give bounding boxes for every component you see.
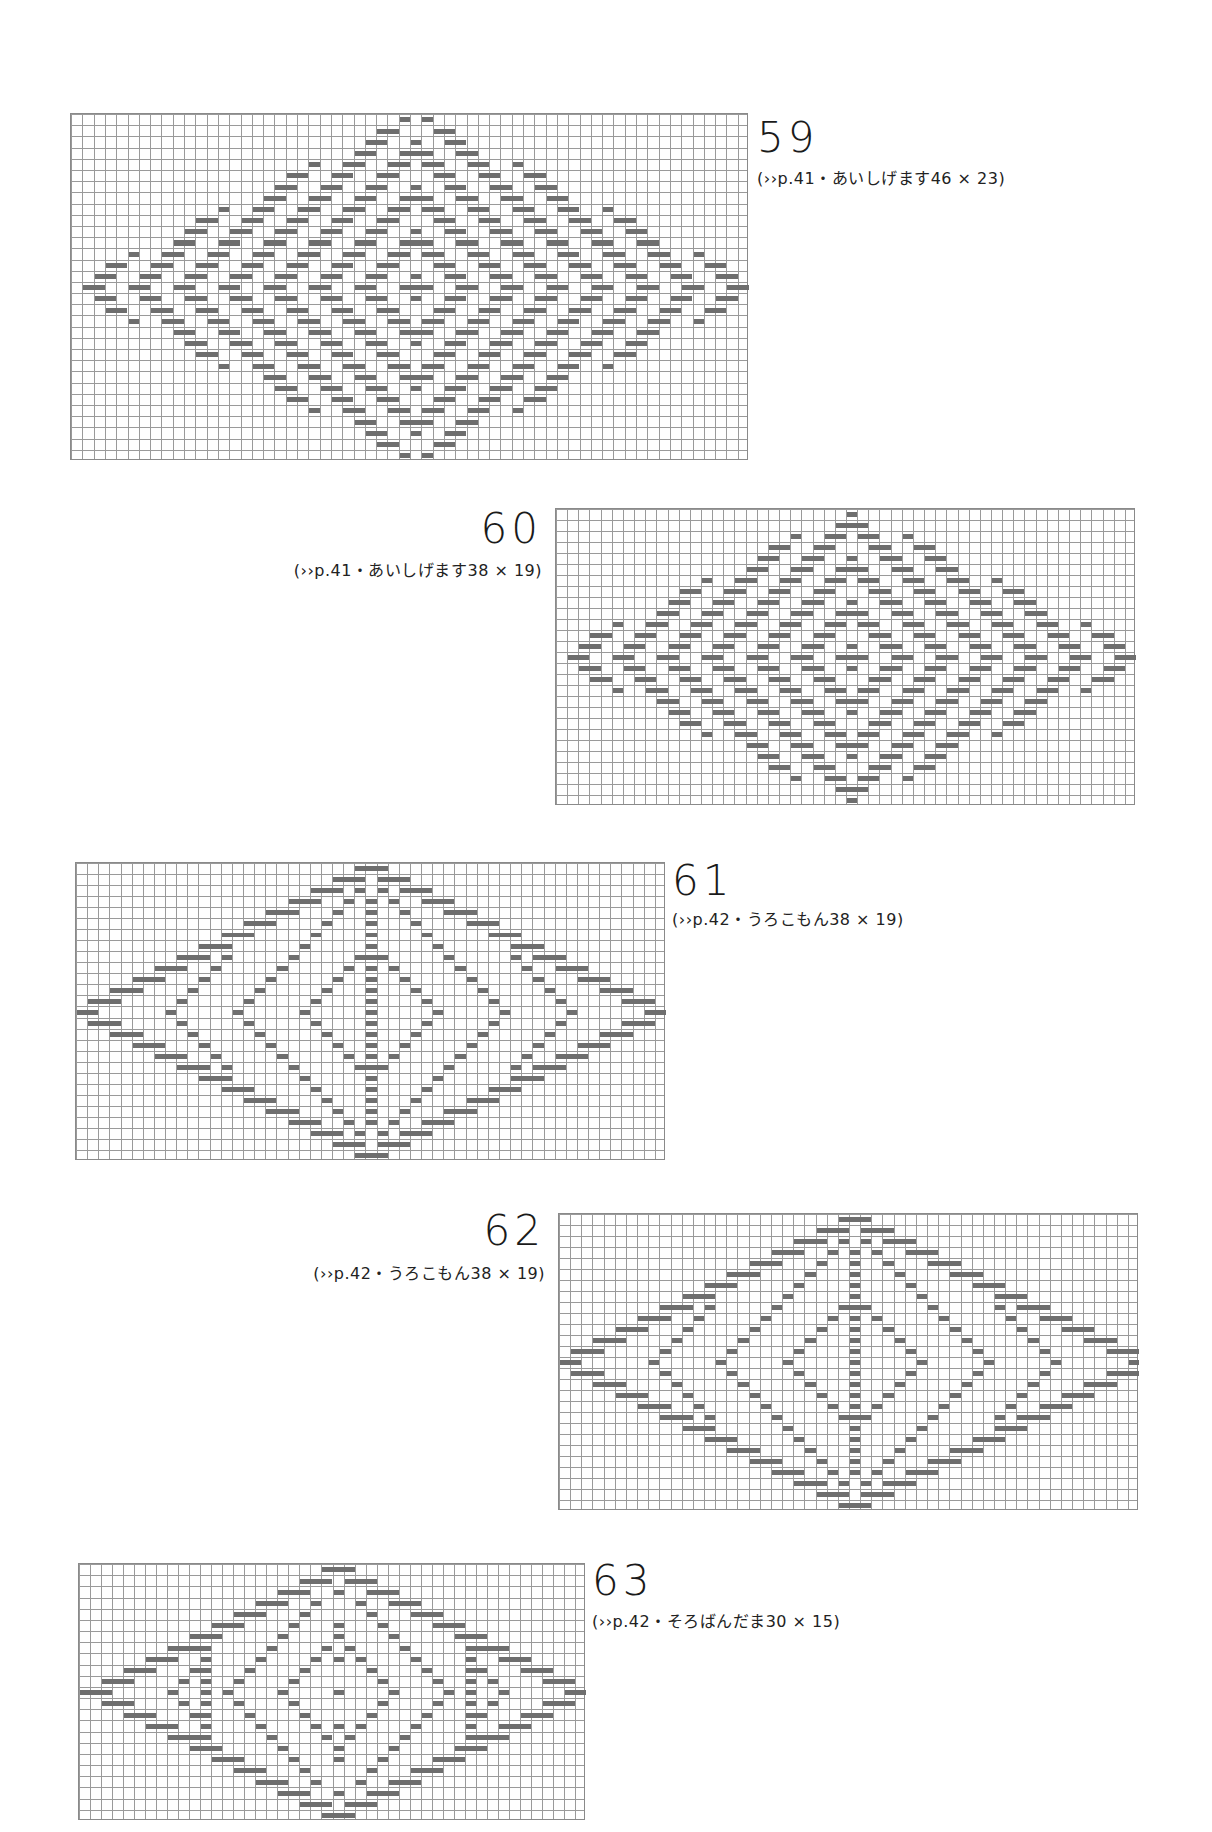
stitch — [906, 1349, 916, 1354]
stitch — [378, 1701, 388, 1706]
stitch — [298, 364, 320, 369]
stitch — [162, 319, 184, 324]
stitch — [705, 263, 727, 268]
stitch — [355, 1131, 365, 1136]
stitch — [880, 600, 901, 605]
stitch — [794, 1481, 826, 1486]
stitch — [716, 296, 738, 301]
stitch — [858, 688, 879, 693]
stitch — [434, 263, 456, 268]
stitch — [735, 688, 756, 693]
stitch — [683, 1426, 715, 1431]
stitch — [802, 710, 823, 715]
stitch — [366, 1098, 376, 1103]
stitch — [334, 1724, 344, 1729]
stitch — [300, 1010, 310, 1015]
stitch — [422, 117, 432, 122]
stitch — [468, 364, 490, 369]
stitch — [626, 296, 648, 301]
stitch — [917, 1360, 927, 1365]
stitch — [377, 263, 399, 268]
stitch — [129, 252, 139, 257]
stitch — [869, 633, 890, 638]
stitch — [847, 666, 857, 671]
stitch — [219, 207, 229, 212]
stitch — [547, 196, 569, 201]
stitch — [861, 1228, 893, 1233]
stitch — [456, 196, 478, 201]
stitch — [332, 352, 354, 357]
stitch — [199, 944, 231, 949]
stitch — [201, 1690, 211, 1695]
stitch — [278, 1791, 310, 1796]
stitch — [925, 754, 946, 759]
stitch — [683, 1294, 715, 1299]
stitch — [311, 1724, 321, 1729]
stitch — [400, 117, 410, 122]
stitch — [466, 1668, 487, 1673]
stitch — [311, 1131, 343, 1136]
stitch — [713, 644, 734, 649]
stitch — [411, 274, 421, 279]
stitch — [735, 732, 756, 737]
stitch — [366, 899, 376, 904]
stitch — [892, 655, 913, 660]
stitch — [242, 263, 264, 268]
stitch — [847, 512, 857, 517]
pattern-caption-59: (››p.41・あいしげます46 × 23) — [757, 165, 1005, 189]
stitch — [892, 743, 913, 748]
stitch — [858, 578, 879, 583]
stitch — [389, 1634, 399, 1639]
stitch — [869, 677, 890, 682]
stitch — [389, 1746, 399, 1751]
stitch — [535, 341, 557, 346]
stitch — [151, 263, 173, 268]
stitch — [321, 274, 343, 279]
stitch — [1028, 1382, 1038, 1387]
stitch — [355, 955, 387, 960]
stitch — [366, 1021, 376, 1026]
stitch — [791, 655, 812, 660]
stitch — [671, 274, 693, 279]
stitch — [367, 1791, 399, 1796]
stitch — [903, 688, 924, 693]
stitch — [914, 589, 935, 594]
stitch — [1092, 677, 1113, 682]
stitch — [196, 263, 218, 268]
stitch — [524, 173, 546, 178]
stitch — [769, 765, 790, 770]
stitch — [592, 240, 614, 245]
stitch — [411, 1768, 443, 1773]
stitch — [783, 1426, 793, 1431]
stitch — [524, 308, 546, 313]
stitch — [366, 386, 388, 391]
stitch — [565, 1690, 586, 1695]
stitch — [400, 453, 410, 458]
pattern-number-59: 59 — [757, 117, 818, 159]
stitch — [155, 1054, 187, 1059]
stitch — [422, 252, 444, 257]
stitch — [190, 1713, 211, 1718]
stitch — [850, 1470, 860, 1475]
stitch — [521, 1668, 553, 1673]
stitch — [366, 1109, 376, 1114]
stitch — [222, 955, 232, 960]
stitch — [140, 274, 162, 279]
stitch — [758, 710, 779, 715]
stitch — [616, 1327, 648, 1332]
stitch — [355, 330, 377, 335]
stitch — [1084, 1382, 1116, 1387]
stitch — [1048, 633, 1069, 638]
stitch — [850, 1250, 860, 1255]
stitch — [356, 1657, 366, 1662]
stitch — [334, 1746, 344, 1751]
stitch — [388, 162, 410, 167]
stitch — [524, 397, 546, 402]
stitch — [256, 1724, 266, 1729]
stitch — [836, 567, 868, 572]
stitch — [478, 1032, 488, 1037]
stitch — [366, 1043, 376, 1048]
stitch — [378, 877, 410, 882]
stitch — [266, 1043, 276, 1048]
stitch — [366, 966, 376, 971]
